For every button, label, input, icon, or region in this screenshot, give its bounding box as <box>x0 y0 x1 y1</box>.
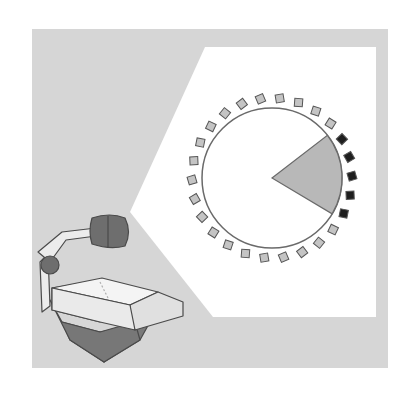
projector-illustration <box>0 0 409 394</box>
seat-highlighted <box>346 191 354 199</box>
seat <box>223 240 233 250</box>
projector-head-lens <box>90 215 129 248</box>
seat <box>187 175 197 185</box>
seat <box>260 253 269 262</box>
seat <box>311 106 321 116</box>
seat-highlighted <box>347 171 357 181</box>
arm-hinge <box>41 256 59 274</box>
seat <box>294 98 303 107</box>
seat-highlighted <box>339 209 348 218</box>
seat <box>196 138 205 147</box>
seat <box>241 249 250 258</box>
seat <box>275 94 284 103</box>
seat <box>190 157 198 165</box>
